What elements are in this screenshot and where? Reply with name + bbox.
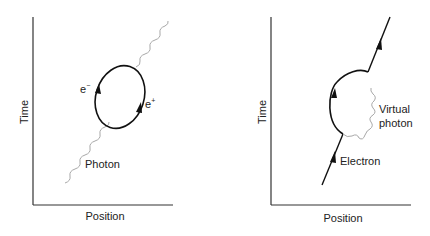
positron-arrow-icon [136,102,142,113]
right-x-axis-label: Position [323,212,362,224]
electron-loop-arc [330,70,368,134]
left-x-axis-label: Position [85,210,124,222]
virtual-photon-label-line2: photon [379,117,413,129]
incoming-electron-arrow-icon [330,151,336,163]
outgoing-photon-line [136,21,168,67]
right-diagram: Time Position Virtual photon Electron [256,17,413,224]
left-y-axis-label: Time [18,100,30,124]
positron-label: e+ [145,97,155,110]
electron-label: e− [80,82,90,95]
virtual-photon-label-line1: Virtual [379,103,410,115]
electron-label: Electron [340,155,380,167]
pair-loop [87,59,152,135]
left-diagram: Time Position e− e+ Photon [18,17,173,222]
outgoing-electron-arrow-icon [376,38,382,50]
right-y-axis-label: Time [256,100,268,124]
left-axes [33,17,173,205]
photon-label: Photon [85,158,120,170]
feynman-diagrams: Time Position e− e+ Photon Time Position… [0,0,430,236]
virtual-photon-line [343,88,375,139]
incoming-photon-line [65,122,109,183]
